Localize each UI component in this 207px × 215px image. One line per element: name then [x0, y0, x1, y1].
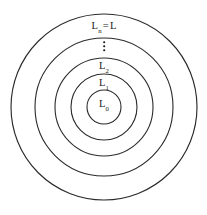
ellipsis-dot: [103, 41, 105, 43]
label-l0: L0: [98, 99, 110, 110]
label-ln-rhs: L: [110, 20, 117, 31]
label-l0-subscript: 0: [105, 105, 109, 112]
label-l0-base: L: [99, 98, 106, 109]
label-ln: Ln=L: [90, 21, 117, 32]
label-l2-subscript: 2: [105, 67, 109, 74]
label-l1-base: L: [99, 77, 106, 88]
label-vertical-ellipsis: [102, 41, 106, 51]
ellipsis-dot: [103, 49, 105, 51]
label-l2-base: L: [99, 60, 106, 71]
label-l2: L2: [98, 61, 110, 72]
label-ln-base: L: [91, 20, 98, 31]
label-ln-equals: =: [102, 20, 110, 31]
label-l1-subscript: 1: [105, 84, 109, 91]
ellipsis-dots: [103, 41, 105, 51]
concentric-circles-figure: Ln=L L2 L1 L0: [0, 0, 207, 215]
label-l1: L1: [98, 78, 110, 89]
label-ln-subscript: n: [98, 27, 102, 34]
ellipsis-dot: [103, 45, 105, 47]
